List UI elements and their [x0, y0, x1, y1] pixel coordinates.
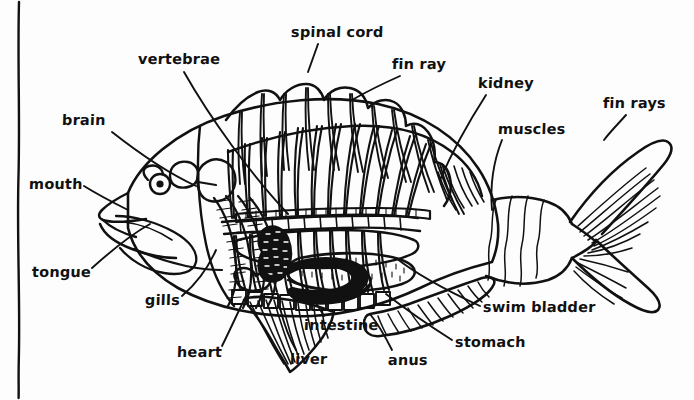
fish-anatomy-drawing [0, 0, 694, 400]
label-muscles: muscles [498, 122, 566, 137]
label-mouth: mouth [29, 177, 83, 192]
eye-pupil [156, 180, 163, 187]
label-kidney: kidney [478, 76, 534, 91]
label-anus: anus [388, 353, 428, 368]
label-intestine: intestine [304, 318, 379, 333]
label-gills: gills [145, 293, 180, 308]
left-margin-line [18, 2, 19, 398]
label-brain: brain [62, 113, 106, 128]
label-tongue: tongue [32, 265, 91, 280]
label-heart: heart [177, 345, 223, 360]
label-liver: liver [290, 352, 328, 367]
label-fin-ray: fin ray [392, 57, 447, 72]
label-spinal-cord: spinal cord [291, 25, 384, 40]
label-stomach: stomach [455, 335, 526, 350]
label-swim-bladder: swim bladder [483, 300, 596, 315]
label-fin-rays: fin rays [603, 96, 666, 111]
fish-anatomy-diagram: spinal cord vertebrae fin ray kidney fin… [0, 0, 694, 400]
label-vertebrae: vertebrae [138, 52, 221, 67]
